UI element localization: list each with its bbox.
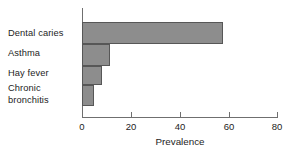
category-axis-labels: Dental caries Asthma Hay fever Chronic b… bbox=[0, 0, 79, 159]
category-label-asthma: Asthma bbox=[8, 48, 40, 60]
x-tick-label-0: 0 bbox=[79, 121, 84, 132]
bar-chronic-bronchitis bbox=[82, 85, 94, 106]
x-tick-40 bbox=[180, 112, 181, 118]
x-tick-label-40: 40 bbox=[175, 121, 186, 132]
category-label-hay-fever: Hay fever bbox=[8, 68, 49, 80]
x-tick-0 bbox=[82, 112, 83, 118]
category-label-chronic-bronchitis: Chronic bronchitis bbox=[8, 83, 78, 106]
x-axis-title: Prevalence bbox=[82, 136, 278, 148]
bar-chart-figure: Dental caries Asthma Hay fever Chronic b… bbox=[0, 0, 296, 159]
category-label-dental-caries: Dental caries bbox=[8, 28, 64, 40]
x-tick-60 bbox=[229, 112, 230, 118]
x-tick-20 bbox=[131, 112, 132, 118]
bar-dental-caries bbox=[82, 22, 223, 44]
x-tick-80 bbox=[277, 112, 278, 118]
x-tick-label-80: 80 bbox=[272, 121, 283, 132]
x-tick-label-60: 60 bbox=[224, 121, 235, 132]
bar-asthma bbox=[82, 44, 110, 66]
plot-area bbox=[82, 8, 277, 117]
bar-hay-fever bbox=[82, 66, 102, 85]
x-tick-label-20: 20 bbox=[126, 121, 137, 132]
